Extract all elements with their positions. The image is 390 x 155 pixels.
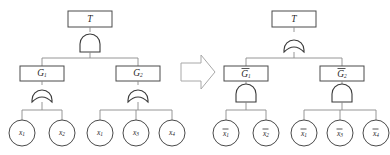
left-g1-subscript: 1 xyxy=(44,72,47,78)
right-leaf-sub-3: 1 xyxy=(304,132,307,138)
left-tree: T G1 G2 xyxy=(9,11,185,146)
left-leaf-sub-3: 1 xyxy=(100,132,103,138)
right-leaf-sub-5: 4 xyxy=(376,132,379,138)
transform-arrow-group xyxy=(181,55,215,89)
right-root-label: T xyxy=(291,14,297,24)
left-leaf-sub-4: 3 xyxy=(135,132,139,138)
right-leaf-sub-2: 2 xyxy=(266,132,269,138)
right-tree: T G1 G2 x1 xyxy=(213,11,389,146)
left-or-gate-g1[interactable] xyxy=(32,90,52,102)
left-root-label: T xyxy=(87,14,93,24)
fault-tree-diagram: T G1 G2 xyxy=(0,0,390,155)
right-and-gate-g2bar[interactable] xyxy=(332,84,352,102)
left-leaf-sub-2: 2 xyxy=(62,132,65,138)
right-leaf-sub-1: 1 xyxy=(226,132,229,138)
right-or-gate-top[interactable] xyxy=(284,40,304,52)
block-arrow-right-icon xyxy=(181,55,215,89)
left-and-gate-top[interactable] xyxy=(80,34,100,52)
right-and-gate-g1bar[interactable] xyxy=(236,84,256,102)
left-g2-subscript: 2 xyxy=(140,72,143,78)
left-or-gate-g2[interactable] xyxy=(128,90,148,102)
right-leaf-sub-4: 3 xyxy=(339,132,343,138)
right-g2-subscript: 2 xyxy=(344,73,347,79)
left-leaf-sub-1: 1 xyxy=(22,132,25,138)
diagram-canvas: T G1 G2 xyxy=(0,0,390,155)
left-leaf-sub-5: 4 xyxy=(172,132,175,138)
right-g1-subscript: 1 xyxy=(248,73,251,79)
